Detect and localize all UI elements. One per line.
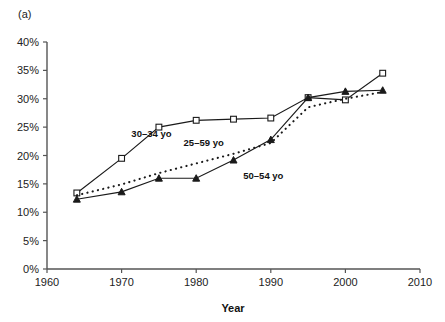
data-point-marker bbox=[231, 116, 237, 122]
data-point-marker bbox=[343, 97, 349, 103]
x-tick-label: 1990 bbox=[259, 276, 283, 288]
series-lines bbox=[73, 70, 386, 202]
series-line-2 bbox=[77, 90, 383, 199]
series-annotations: 30–34 yo25–59 yo50–54 yo bbox=[131, 128, 283, 181]
data-point-marker bbox=[119, 155, 125, 161]
x-tick-label: 1970 bbox=[109, 276, 133, 288]
y-tick-label: 20% bbox=[17, 150, 39, 162]
data-point-marker bbox=[268, 115, 274, 121]
y-tick-label: 15% bbox=[17, 178, 39, 190]
series-label-0: 30–34 yo bbox=[131, 128, 171, 139]
y-tick-label: 5% bbox=[23, 235, 39, 247]
y-tick-label: 0% bbox=[23, 263, 39, 275]
data-point-marker bbox=[193, 117, 199, 123]
y-tick-label: 10% bbox=[17, 206, 39, 218]
y-tick-label: 30% bbox=[17, 93, 39, 105]
x-axis-title: Year bbox=[221, 302, 245, 314]
data-point-marker bbox=[230, 157, 237, 163]
series-line-1 bbox=[77, 92, 383, 195]
y-tick-label: 40% bbox=[17, 36, 39, 48]
x-axis: 196019701980199020002010 bbox=[35, 269, 432, 288]
line-chart-plot: 0%5%10%15%20%25%30%35%40% 19601970198019… bbox=[0, 0, 445, 322]
chart-container: (a) 0%5%10%15%20%25%30%35%40% 1960197019… bbox=[0, 0, 445, 322]
series-label-1: 25–59 yo bbox=[184, 137, 224, 148]
data-point-marker bbox=[380, 70, 386, 76]
series-label-2: 50–54 yo bbox=[243, 170, 283, 181]
x-tick-label: 1980 bbox=[184, 276, 208, 288]
y-tick-label: 25% bbox=[17, 121, 39, 133]
x-tick-label: 2010 bbox=[408, 276, 432, 288]
x-tick-label: 1960 bbox=[35, 276, 59, 288]
y-axis: 0%5%10%15%20%25%30%35%40% bbox=[17, 36, 47, 275]
x-tick-label: 2000 bbox=[333, 276, 357, 288]
data-point-marker bbox=[118, 188, 125, 194]
y-tick-label: 35% bbox=[17, 64, 39, 76]
series-line-0 bbox=[77, 73, 383, 193]
